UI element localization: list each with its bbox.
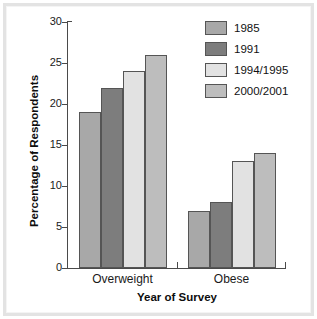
bar-obese-1985 [188, 211, 210, 268]
legend-swatch-icon [205, 21, 227, 35]
legend-swatch-icon [205, 63, 227, 77]
legend-swatch-icon [205, 42, 227, 56]
x-axis-title: Year of Survey [68, 291, 286, 303]
x-tick-label-overweight: Overweight [68, 272, 177, 286]
legend-item: 2000/2001 [205, 80, 288, 101]
y-tick-label-0: 0 [36, 262, 62, 273]
bar-overweight-1994-1995 [123, 71, 145, 268]
legend-item: 1985 [205, 17, 288, 38]
legend-item: 1994/1995 [205, 59, 288, 80]
legend-label: 1991 [234, 43, 260, 55]
x-tick-label-obese: Obese [177, 272, 286, 286]
legend-label: 1994/1995 [234, 64, 288, 76]
legend: 198519911994/19952000/2001 [205, 17, 288, 101]
bar-obese-1994-1995 [232, 161, 254, 268]
y-axis-title: Percentage of Respondents [28, 51, 40, 251]
legend-swatch-icon [205, 84, 227, 98]
bar-overweight-1985 [79, 112, 101, 268]
bar-overweight-2000-2001 [145, 55, 167, 268]
y-tick-0 [62, 268, 68, 269]
legend-label: 2000/2001 [234, 85, 288, 97]
legend-label: 1985 [234, 22, 260, 34]
bar-obese-2000-2001 [254, 153, 276, 268]
bar-obese-1991 [210, 202, 232, 268]
y-tick-label-30: 30 [36, 16, 62, 27]
bar-overweight-1991 [101, 88, 123, 268]
chart-figure: 051015202530 Overweight Obese Year of Su… [0, 0, 317, 319]
legend-item: 1991 [205, 38, 288, 59]
